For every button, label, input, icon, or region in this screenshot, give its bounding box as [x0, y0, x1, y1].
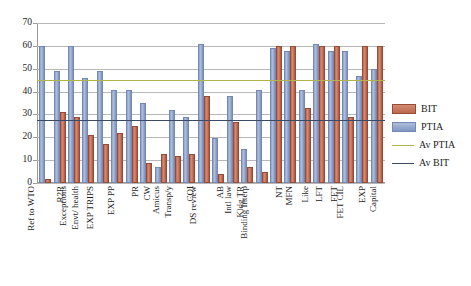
legend-label: Av PTIA [419, 140, 455, 150]
bar-group [96, 23, 110, 183]
legend-item[interactable]: Av BIT [392, 154, 471, 172]
y-tick-label: 30 [23, 110, 33, 120]
x-category: NT [269, 186, 283, 282]
bar-chart: 010203040506070 Ref to WTOR2RExceptionsE… [0, 0, 471, 286]
y-tick-label: 40 [23, 87, 33, 97]
bar-bit [319, 46, 325, 183]
bar-bit [117, 133, 123, 183]
x-category: Like [298, 186, 312, 282]
legend-label: Av BIT [419, 158, 449, 168]
y-tick-label: 20 [23, 133, 33, 143]
legend-swatch-icon [392, 104, 416, 114]
bar-bit [45, 179, 51, 183]
bar-group [153, 23, 167, 183]
x-category: Transp/y [168, 186, 182, 282]
bar-group [326, 23, 340, 183]
y-tick-label: 70 [23, 18, 33, 28]
bar-series-container [37, 23, 385, 183]
bar-group [52, 23, 66, 183]
legend-swatch-icon [392, 163, 414, 164]
bar-group [139, 23, 153, 183]
x-category: DS review [197, 186, 211, 282]
legend: BITPTIAAv PTIAAv BIT [392, 100, 471, 172]
bar-bit [204, 96, 210, 183]
x-category-label: Capital [368, 186, 377, 212]
bar-bit [348, 117, 354, 183]
bar-bit [362, 46, 368, 183]
bar-group [125, 23, 139, 183]
x-category-label: LFT [316, 186, 325, 202]
bar-bit [88, 135, 94, 183]
bar-bit [305, 108, 311, 183]
x-category-label: MFN [285, 186, 294, 206]
bar-group [298, 23, 312, 183]
x-category: Capital [370, 186, 384, 282]
x-category-label: Ref to WTO [27, 186, 36, 231]
bar-group [110, 23, 124, 183]
bar-group [182, 23, 196, 183]
bar-bit [103, 144, 109, 183]
x-category: FET CIL [341, 186, 355, 282]
bar-group [168, 23, 182, 183]
x-category-label: Envt/ health [71, 186, 80, 230]
bar-bit [74, 117, 80, 183]
bar-bit [276, 46, 282, 183]
x-category-label: FET CIL [336, 186, 345, 219]
x-category-label: EXP [358, 186, 367, 203]
y-tick-label: 50 [23, 64, 33, 74]
legend-swatch-icon [392, 145, 414, 146]
plot-area [37, 23, 385, 183]
x-category-label: EXP TRIPS [86, 186, 95, 229]
x-category: Binding Interp [254, 186, 268, 282]
bar-group [254, 23, 268, 183]
bar-bit [290, 46, 296, 183]
bar-bit [262, 172, 268, 183]
x-axis-categories: Ref to WTOR2RExceptionsEnvt/ healthEXP T… [37, 186, 385, 282]
bar-bit [233, 122, 239, 183]
bar-bit [189, 154, 195, 183]
bar-bit [218, 174, 224, 183]
bar-group [283, 23, 297, 183]
legend-item[interactable]: BIT [392, 100, 471, 118]
legend-label: PTIA [421, 122, 443, 132]
bar-bit [132, 126, 138, 183]
x-category: PR [125, 186, 139, 282]
bar-bit [161, 154, 167, 183]
bar-group [370, 23, 384, 183]
bar-group [81, 23, 95, 183]
bar-ptia [39, 46, 45, 183]
x-category-label: Binding Interp [240, 186, 249, 239]
bar-group [269, 23, 283, 183]
reference-line-av-bit [37, 120, 385, 121]
legend-item[interactable]: PTIA [392, 118, 471, 136]
bar-bit [247, 167, 253, 183]
bar-group [312, 23, 326, 183]
x-category-label: DS review [189, 186, 198, 224]
x-category-label: Like [301, 186, 310, 203]
bar-group [38, 23, 52, 183]
bar-group [355, 23, 369, 183]
legend-item[interactable]: Av PTIA [392, 136, 471, 154]
bar-bit [377, 46, 383, 183]
reference-line-av-ptia [37, 80, 385, 81]
y-tick-label: 10 [23, 155, 33, 165]
x-category: MFN [283, 186, 297, 282]
x-category-label: Transp/y [164, 186, 173, 218]
legend-label: BIT [421, 104, 437, 114]
y-axis: 010203040506070 [0, 23, 32, 183]
bar-group [211, 23, 225, 183]
x-category: Ref to WTO [38, 186, 52, 282]
x-category-label: Intl law [223, 186, 232, 214]
bar-bit [146, 163, 152, 183]
y-tick-label: 60 [23, 41, 33, 51]
bar-ptia [256, 90, 262, 183]
x-category: LFT [312, 186, 326, 282]
bar-group [225, 23, 239, 183]
bar-group [240, 23, 254, 183]
bar-bit [334, 46, 340, 183]
legend-swatch-icon [392, 122, 416, 132]
x-category: EXP PP [110, 186, 124, 282]
y-tick-mark [33, 183, 37, 184]
bar-group [197, 23, 211, 183]
x-category-label: Amicus [151, 186, 160, 214]
